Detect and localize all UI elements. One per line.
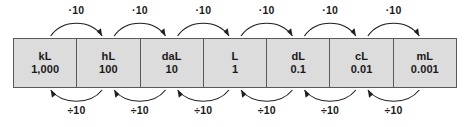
arrowhead-icon	[160, 28, 168, 37]
divide-arrow-arc	[241, 90, 292, 101]
multiply-label: ·10	[56, 4, 96, 16]
divide-label: ÷10	[120, 104, 160, 116]
unit-value: 10	[165, 63, 177, 76]
unit-cell-kilo: kL 1,000	[14, 39, 77, 87]
divide-arrow-arc	[178, 90, 229, 101]
multiply-arrow-group	[51, 23, 422, 37]
multiply-label: ·10	[310, 4, 350, 16]
unit-cell-deka: daL 10	[141, 39, 204, 87]
arrowhead-icon	[48, 89, 56, 98]
multiply-arrow-arc	[304, 23, 355, 36]
unit-cell-hecto: hL 100	[77, 39, 140, 87]
arrowhead-icon	[112, 89, 120, 98]
arrowhead-icon	[302, 89, 310, 98]
arrowhead-icon	[175, 89, 183, 98]
unit-symbol: kL	[39, 50, 52, 63]
arrowhead-icon	[366, 89, 374, 98]
unit-symbol: daL	[162, 50, 182, 63]
divide-arrow-arc	[51, 90, 102, 101]
arrowhead-icon	[413, 28, 421, 37]
divide-label: ÷10	[183, 104, 223, 116]
divide-arrow-arc	[368, 90, 419, 101]
unit-value: 1	[232, 63, 238, 76]
multiply-label: ·10	[374, 4, 414, 16]
metric-conversion-diagram: kL 1,000 hL 100 daL 10 L 1 dL 0.1 cL 0.0…	[0, 0, 470, 127]
divide-label: ÷10	[310, 104, 350, 116]
unit-symbol: cL	[355, 50, 368, 63]
divide-label: ÷10	[56, 104, 96, 116]
unit-cell-base: L 1	[204, 39, 267, 87]
multiply-label: ·10	[247, 4, 287, 16]
divide-label: ÷10	[374, 104, 414, 116]
unit-value: 0.001	[411, 63, 439, 76]
arrowhead-icon	[350, 28, 358, 37]
unit-cell-deci: dL 0.1	[267, 39, 330, 87]
multiply-arrow-arc	[114, 23, 165, 36]
divide-label: ÷10	[247, 104, 287, 116]
unit-value: 1,000	[31, 63, 59, 76]
unit-symbol: hL	[102, 50, 116, 63]
multiply-arrow-arc	[51, 23, 102, 36]
unit-value: 0.1	[290, 63, 306, 76]
unit-value: 0.01	[351, 63, 373, 76]
divide-arrow-arc	[114, 90, 165, 101]
arrowhead-icon	[223, 28, 231, 37]
unit-cell-milli: mL 0.001	[394, 39, 456, 87]
unit-cell-centi: cL 0.01	[330, 39, 393, 87]
unit-value: 100	[99, 63, 118, 76]
divide-arrow-arc	[304, 90, 355, 101]
arrowhead-icon	[96, 28, 104, 37]
multiply-arrow-arc	[178, 23, 229, 36]
multiply-label: ·10	[183, 4, 223, 16]
unit-symbol: L	[232, 50, 239, 63]
unit-symbol: dL	[291, 50, 305, 63]
arrowhead-icon	[286, 28, 294, 37]
arrowhead-icon	[239, 89, 247, 98]
divide-arrow-group	[48, 89, 419, 102]
multiply-arrow-arc	[368, 23, 419, 36]
multiply-label: ·10	[120, 4, 160, 16]
unit-symbol: mL	[416, 50, 433, 63]
unit-table: kL 1,000 hL 100 daL 10 L 1 dL 0.1 cL 0.0…	[13, 38, 457, 88]
multiply-arrow-arc	[241, 23, 292, 36]
